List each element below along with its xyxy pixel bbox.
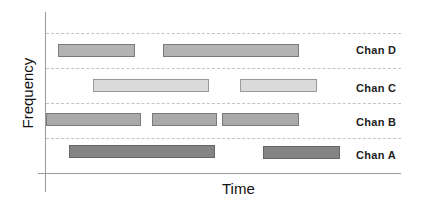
y-axis — [45, 12, 46, 192]
chan-a-bar — [263, 146, 340, 159]
gridline — [46, 68, 401, 69]
chan-b-bar — [46, 113, 141, 126]
chan-d-label: Chan D — [356, 44, 396, 56]
chan-c-label: Chan C — [356, 82, 396, 94]
chan-b-bar — [152, 113, 217, 126]
x-axis-label: Time — [222, 180, 255, 197]
chan-a-bar — [69, 145, 215, 158]
x-axis — [38, 173, 401, 174]
chan-a-label: Chan A — [356, 149, 396, 161]
chan-b-bar — [222, 113, 299, 126]
chan-c-bar — [93, 79, 209, 92]
chan-d-bar — [58, 44, 135, 57]
gridline — [46, 103, 401, 104]
gridline — [46, 138, 401, 139]
gridline — [46, 33, 401, 34]
chan-d-bar — [163, 44, 299, 57]
y-axis-label: Frequency — [19, 69, 36, 129]
chan-c-bar — [240, 79, 317, 92]
chan-b-label: Chan B — [356, 116, 396, 128]
